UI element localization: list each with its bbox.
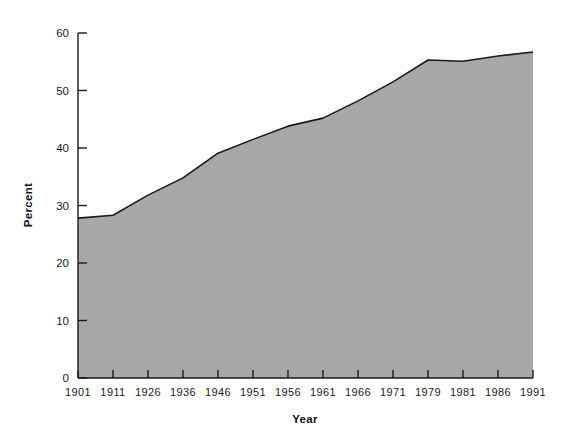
y-axis-tick-label: 20 xyxy=(56,257,69,269)
y-axis-tick-label: 30 xyxy=(56,200,69,212)
x-axis-tick-label: 1936 xyxy=(170,386,196,398)
x-axis-tick-label: 1986 xyxy=(485,386,511,398)
x-axis-title: Year xyxy=(292,413,318,425)
x-axis-tick-label: 1946 xyxy=(205,386,231,398)
x-axis-tick-label: 1951 xyxy=(240,386,266,398)
x-axis-tick-label: 1961 xyxy=(310,386,336,398)
x-axis-tick-label: 1926 xyxy=(135,386,161,398)
x-axis-tick-label: 1966 xyxy=(345,386,371,398)
y-axis-tick-label: 60 xyxy=(56,27,69,39)
area-series-fill xyxy=(78,52,533,378)
x-axis-tick-label: 1971 xyxy=(380,386,406,398)
area-chart: 0102030405060 19011911192619361946195119… xyxy=(0,0,566,440)
y-axis-tick-label: 40 xyxy=(56,142,69,154)
y-axis-tick-label: 50 xyxy=(56,85,69,97)
x-axis-tick-label: 1979 xyxy=(415,386,441,398)
y-axis-tick-label: 10 xyxy=(56,315,69,327)
x-axis-tick-label: 1911 xyxy=(100,386,125,398)
chart-container: 0102030405060 19011911192619361946195119… xyxy=(0,0,566,440)
x-axis-tick-labels: 1901191119261936194619511956196119661971… xyxy=(65,386,546,398)
y-axis-tick-labels: 0102030405060 xyxy=(56,27,69,384)
x-axis-tick-label: 1991 xyxy=(520,386,546,398)
y-axis-title: Percent xyxy=(22,183,34,227)
y-axis-tick-label: 0 xyxy=(63,372,69,384)
x-axis-tick-label: 1956 xyxy=(275,386,301,398)
x-axis-tick-label: 1981 xyxy=(450,386,476,398)
x-axis-tick-label: 1901 xyxy=(65,386,91,398)
